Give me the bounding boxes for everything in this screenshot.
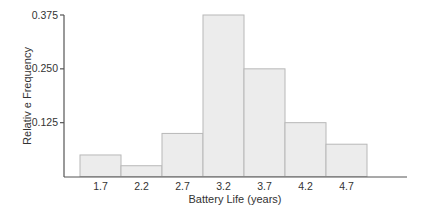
x-tick-label: 1.7 xyxy=(93,180,108,192)
y-axis-label: Relativ e Frequency xyxy=(21,47,33,145)
x-axis-label: Battery Life (years) xyxy=(189,193,282,205)
x-tick-label: 4.7 xyxy=(339,180,354,192)
bar-3.2 xyxy=(203,15,244,177)
y-ticks: 0.1250.2500.375 xyxy=(32,9,64,129)
bar-1.7 xyxy=(80,155,121,177)
x-tick-label: 4.2 xyxy=(298,180,313,192)
bar-3.7 xyxy=(244,69,285,177)
bar-2.2 xyxy=(121,166,162,177)
bar-2.7 xyxy=(162,133,203,176)
x-tick-label: 2.7 xyxy=(175,180,190,192)
bar-4.2 xyxy=(285,123,326,177)
bars-group xyxy=(80,15,367,177)
bar-4.7 xyxy=(326,144,367,176)
x-tick-label: 2.2 xyxy=(134,180,149,192)
y-tick-label: 0.250 xyxy=(32,62,58,74)
x-tick-label: 3.7 xyxy=(257,180,272,192)
x-tick-label: 3.2 xyxy=(216,180,231,192)
y-tick-label: 0.375 xyxy=(32,9,58,21)
histogram-chart: 0.1250.2500.375 1.72.22.73.23.74.24.7 Ba… xyxy=(0,0,424,211)
y-tick-label: 0.125 xyxy=(32,116,58,128)
x-ticks: 1.72.22.73.23.74.24.7 xyxy=(93,180,354,192)
